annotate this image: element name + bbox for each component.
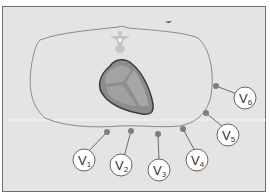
electrode-v2 [128,128,134,134]
lead-label-v2: V2 [110,154,132,176]
lead-label-v5: V5 [217,124,239,146]
lead-label-v1: V1 [73,149,95,171]
spine-icon [110,31,130,53]
electrode-v1 [104,129,110,135]
electrode-v5 [203,110,209,116]
marker-icon [165,21,172,23]
electrode-v6 [213,83,219,89]
lead-label-v3: V3 [148,159,170,181]
lead-label-v6: V6 [234,87,256,109]
electrode-v4 [180,126,186,132]
heart-icon [100,60,154,115]
lead-label-v4: V4 [186,149,208,171]
electrode-v3 [155,131,161,137]
chest-diagram: V1 V2 V3 V4 V5 V6 [0,0,270,195]
